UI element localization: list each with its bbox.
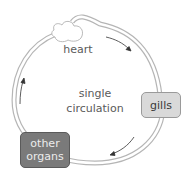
arrow-head-icon — [21, 78, 25, 84]
heart-shape — [52, 21, 83, 41]
center-label-line2: circulation — [58, 102, 132, 115]
heart-label: heart — [58, 43, 98, 56]
arrow-organs-to-heart — [20, 81, 23, 104]
center-label-line1: single — [68, 87, 122, 100]
arrow-head-icon — [110, 152, 115, 156]
other-organs-label-line2: organs — [26, 150, 64, 163]
other-organs-label-line1: other — [30, 137, 59, 150]
gills-node: gills — [141, 92, 181, 118]
arrow-heart-to-gills — [106, 37, 129, 49]
gills-label: gills — [150, 99, 172, 112]
arrow-gills-to-organs — [112, 137, 134, 154]
other-organs-node: other organs — [20, 132, 70, 168]
